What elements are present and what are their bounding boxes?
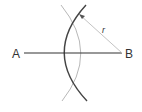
point-label-a: A — [12, 47, 20, 61]
diagram-canvas: A B r — [0, 0, 142, 112]
radius-line — [80, 15, 122, 53]
point-label-b: B — [125, 47, 133, 61]
construction-diagram: A B r — [0, 0, 142, 112]
radius-label: r — [102, 25, 106, 35]
